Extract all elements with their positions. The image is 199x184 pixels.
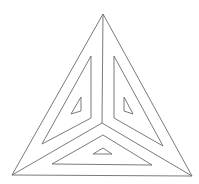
nested-triangles-diagram	[0, 0, 199, 184]
right-inner-triangle	[114, 56, 163, 146]
divider-apex	[102, 14, 103, 123]
bottom-inner-triangle	[52, 135, 152, 165]
divider-left	[12, 123, 102, 175]
right-small-triangle	[124, 97, 133, 114]
left-small-triangle	[71, 97, 81, 114]
left-inner-triangle	[42, 56, 91, 144]
bottom-small-triangle	[93, 148, 112, 154]
divider-right	[102, 123, 192, 176]
